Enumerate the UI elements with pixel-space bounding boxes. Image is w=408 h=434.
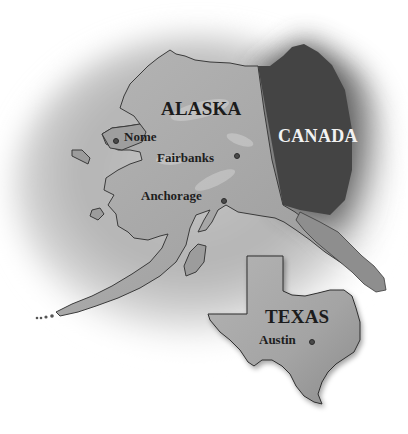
- city-dot-fairbanks: [234, 153, 240, 159]
- label-anchorage: Anchorage: [141, 189, 202, 202]
- label-canada: CANADA: [278, 127, 358, 145]
- city-dot-austin: [309, 339, 315, 345]
- map-canvas: [0, 0, 408, 434]
- label-texas: TEXAS: [265, 307, 329, 326]
- label-alaska: ALASKA: [161, 99, 241, 118]
- label-austin: Austin: [259, 333, 296, 346]
- city-dot-nome: [113, 138, 119, 144]
- city-dot-anchorage: [221, 198, 227, 204]
- label-fairbanks: Fairbanks: [157, 151, 214, 164]
- aleutian-islands: [36, 314, 54, 319]
- label-nome: Nome: [124, 130, 157, 143]
